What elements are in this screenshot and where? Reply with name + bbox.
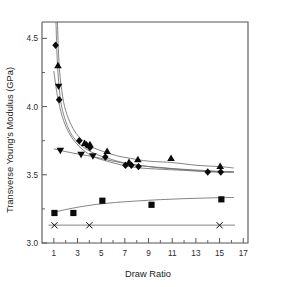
y-tick-label: 3.5 <box>27 171 39 180</box>
y-axis-title: Transverse Young's Modulus (GPa) <box>5 67 15 213</box>
data-point-square <box>218 196 224 202</box>
data-point-square <box>99 198 105 204</box>
x-tick-label: 5 <box>99 249 104 258</box>
x-tick-label: 1 <box>52 249 57 258</box>
chart-background <box>0 0 286 287</box>
x-tick-label: 11 <box>168 249 177 258</box>
x-axis-title: Draw Ratio <box>125 269 171 279</box>
x-tick-label: 7 <box>123 249 128 258</box>
x-tick-label: 17 <box>239 249 249 258</box>
y-tick-label: 4.5 <box>27 34 39 43</box>
y-tick-label: 4.0 <box>27 103 39 112</box>
data-point-square <box>148 202 154 208</box>
x-tick-label: 3 <box>75 249 80 258</box>
x-tick-label: 13 <box>191 249 201 258</box>
data-point-square <box>51 210 57 216</box>
chart-figure: 3.03.54.04.5 1357911131517 Transverse Yo… <box>0 0 286 287</box>
x-tick-label: 15 <box>215 249 225 258</box>
transverse-modulus-scatter-chart: 3.03.54.04.5 1357911131517 Transverse Yo… <box>0 0 286 287</box>
y-tick-label: 3.0 <box>27 239 39 248</box>
x-tick-label: 9 <box>146 249 151 258</box>
data-point-square <box>70 210 76 216</box>
